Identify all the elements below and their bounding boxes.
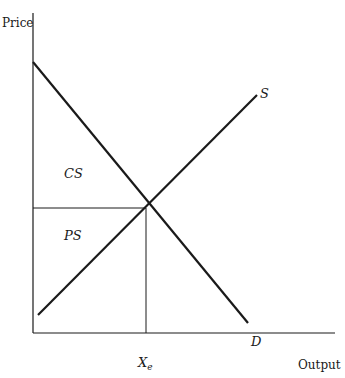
supply-demand-diagram: Price Output S D CS PS Xe	[0, 0, 345, 378]
consumer-surplus-label: CS	[64, 166, 83, 181]
demand-label: D	[250, 334, 262, 349]
supply-curve	[38, 95, 257, 315]
y-axis-label: Price	[2, 16, 33, 30]
equilibrium-output-label: Xe	[137, 355, 153, 372]
x-axis-label: Output	[298, 358, 341, 372]
producer-surplus-label: PS	[63, 228, 82, 243]
supply-label: S	[260, 86, 269, 101]
demand-curve	[33, 62, 248, 323]
equilibrium-output-sub: e	[147, 362, 152, 372]
